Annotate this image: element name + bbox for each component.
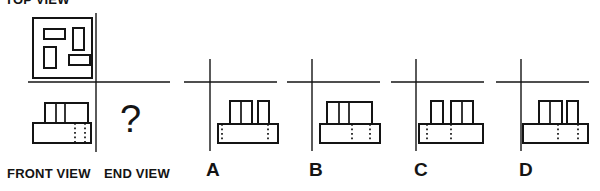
right-stud bbox=[567, 101, 578, 124]
unknown-end-view-mark: ? bbox=[120, 99, 141, 141]
right-stud bbox=[258, 101, 269, 124]
front-top-block bbox=[45, 103, 88, 123]
projection-worksheet: TOP VIEW ? FRONT VIEW END VIEW A B C D bbox=[0, 0, 600, 191]
top-view-label: TOP VIEW bbox=[5, 0, 70, 7]
base bbox=[320, 124, 380, 143]
option-c-figure bbox=[391, 59, 484, 151]
option-d-figure bbox=[496, 59, 589, 151]
option-label-c: C bbox=[414, 159, 428, 181]
top-view-slot-4 bbox=[69, 55, 90, 65]
option-a-figure bbox=[184, 59, 278, 151]
option-b-figure bbox=[287, 59, 380, 151]
option-label-d: D bbox=[519, 159, 533, 181]
front-base bbox=[33, 123, 91, 143]
option-label-b: B bbox=[309, 159, 323, 181]
top-view-slot-2 bbox=[73, 28, 84, 50]
base bbox=[218, 124, 278, 143]
top-view-figure bbox=[33, 18, 92, 78]
question-axes bbox=[28, 13, 170, 152]
top-view-slot-3 bbox=[44, 47, 56, 68]
left-stud bbox=[431, 101, 443, 124]
top-view-slot-1 bbox=[44, 29, 65, 39]
front-view-figure bbox=[33, 103, 91, 143]
figures-svg bbox=[0, 0, 600, 191]
end-view-label: END VIEW bbox=[104, 166, 170, 181]
option-label-a: A bbox=[206, 159, 220, 181]
front-view-label: FRONT VIEW bbox=[7, 166, 91, 181]
